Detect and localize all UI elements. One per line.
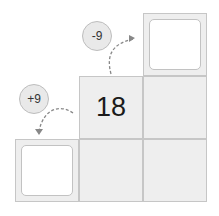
arrows	[0, 0, 219, 216]
arrowhead-down-left-icon	[35, 129, 43, 135]
arrowhead-up-right-icon	[129, 35, 135, 42]
arrow-down-left	[39, 109, 73, 131]
arrowheads	[35, 35, 135, 135]
arrow-up-right	[109, 39, 133, 74]
